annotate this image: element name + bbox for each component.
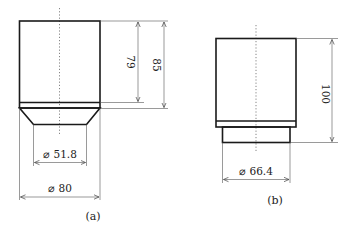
caption-b: (b)	[267, 194, 283, 207]
dim-label-80: ⌀ 80	[48, 182, 72, 194]
dim-label-100: 100	[320, 84, 332, 104]
technical-drawing: 79 85 ⌀ 51.8 ⌀ 80 (a) 100 ⌀ 66.4 (b)	[0, 0, 352, 235]
caption-a: (a)	[85, 210, 100, 223]
dim-label-51-8: ⌀ 51.8	[43, 148, 77, 160]
dim-label-85: 85	[151, 58, 163, 71]
dim-label-66-4: ⌀ 66.4	[239, 165, 273, 177]
figure-b: 100 ⌀ 66.4 (b)	[216, 25, 338, 207]
figure-a: 79 85 ⌀ 51.8 ⌀ 80 (a)	[20, 8, 169, 223]
dim-label-79: 79	[125, 55, 137, 68]
